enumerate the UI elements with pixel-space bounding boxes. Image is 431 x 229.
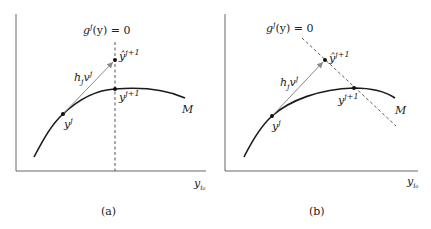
corrector-label: yj+1 [337, 92, 359, 107]
start-point-label: yj [63, 116, 73, 131]
point-corrector [113, 87, 117, 91]
predictor-label: ŷj+1 [328, 50, 350, 65]
x-axis-label: yi₀ [193, 177, 205, 192]
tangent-arrow [272, 62, 323, 116]
corrector-label: yj+1 [118, 89, 140, 104]
predictor-corrector-diagram: gj(y) = 0 ŷj+1 yj+1 yj hjvj M yi₀ (a) gj… [0, 0, 431, 229]
point-yj [61, 112, 65, 116]
panel-caption: (a) [101, 205, 116, 218]
point-predictor [113, 58, 117, 62]
manifold-label: M [181, 103, 194, 116]
manifold-curve [244, 88, 395, 157]
point-corrector [352, 86, 356, 90]
panel-b: gj(y) = 0 ŷj+1 yj+1 yj hjvj M yi₀ (b) [225, 14, 418, 218]
step-label: hjvj [74, 69, 93, 86]
x-axis-label: yi₀ [406, 175, 418, 190]
point-predictor [323, 58, 327, 62]
tangent-arrow [63, 62, 113, 114]
point-yj [270, 114, 274, 118]
start-point-label: yj [271, 118, 281, 133]
step-label: hjvj [280, 74, 299, 91]
panel-caption: (b) [309, 205, 325, 218]
constraint-label: gj(y) = 0 [83, 22, 131, 37]
panel-a: gj(y) = 0 ŷj+1 yj+1 yj hjvj M yi₀ (a) [16, 14, 206, 218]
constraint-label: gj(y) = 0 [266, 20, 314, 35]
manifold-curve [34, 88, 185, 157]
manifold-label: M [394, 104, 407, 117]
predictor-label: ŷj+1 [118, 48, 140, 63]
